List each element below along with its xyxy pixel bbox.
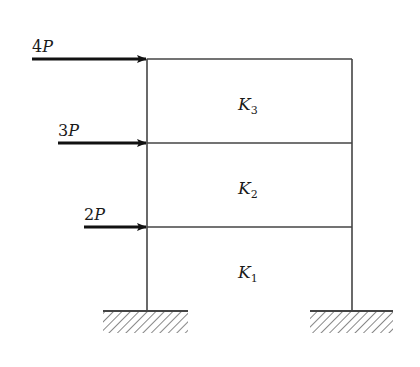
load-coefficient: 2 xyxy=(84,205,94,224)
ground-hatch xyxy=(310,311,393,333)
lateral-loads: 4P3P2P xyxy=(32,37,146,227)
stiffness-label-K2: K2 xyxy=(237,178,258,201)
load-variable: P xyxy=(41,37,53,56)
ground-hatch xyxy=(103,311,188,333)
stiffness-label-K1: K1 xyxy=(237,262,258,285)
floor-beams xyxy=(147,59,352,227)
left-fixed-support xyxy=(103,311,188,333)
load-arrow-2P: 2P xyxy=(84,205,146,227)
stiffness-labels: K3K2K1 xyxy=(237,94,258,285)
load-variable: P xyxy=(93,205,105,224)
stiffness-label-K3: K3 xyxy=(237,94,258,117)
frame-diagram: 4P3P2P K3K2K1 xyxy=(0,0,420,367)
load-arrow-3P: 3P xyxy=(58,121,146,143)
load-label: 2P xyxy=(84,205,105,224)
fixed-supports xyxy=(103,311,393,333)
load-label: 3P xyxy=(58,121,79,140)
load-coefficient: 3 xyxy=(58,121,68,140)
right-fixed-support xyxy=(310,311,393,333)
load-variable: P xyxy=(67,121,79,140)
load-arrow-4P: 4P xyxy=(32,37,146,59)
load-coefficient: 4 xyxy=(32,37,42,56)
diagram-svg: 4P3P2P K3K2K1 xyxy=(0,0,420,367)
load-label: 4P xyxy=(32,37,53,56)
